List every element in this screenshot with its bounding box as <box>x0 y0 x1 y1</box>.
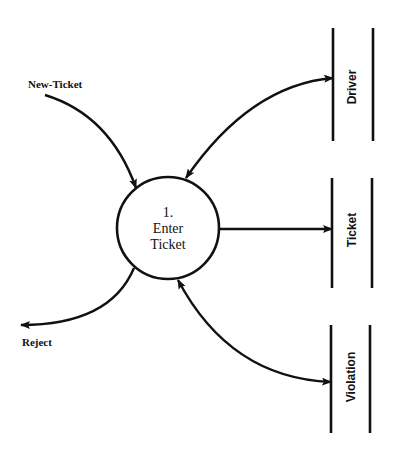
process-name-line1: Enter <box>153 221 184 236</box>
process-name-line2: Ticket <box>150 237 185 252</box>
process-number: 1. <box>163 205 174 220</box>
data-store-ticket: Ticket <box>332 178 372 288</box>
violation-flow-arrow <box>178 280 331 382</box>
data-store-violation-label: Violation <box>344 352 358 402</box>
process-enter-ticket: 1. Enter Ticket <box>117 177 219 279</box>
data-store-driver: Driver <box>333 28 373 141</box>
data-store-violation: Violation <box>331 325 370 433</box>
data-store-ticket-label: Ticket <box>345 213 359 247</box>
reject-flow-label: Reject <box>22 336 52 348</box>
reject-flow-arrow <box>21 268 134 325</box>
data-store-driver-label: Driver <box>345 69 359 104</box>
driver-flow-arrow <box>186 78 333 178</box>
new-ticket-flow-arrow <box>45 95 136 188</box>
new-ticket-flow-label: New-Ticket <box>28 78 83 90</box>
data-flow-diagram: New-Ticket 1. Enter Ticket Reject Driver… <box>0 0 395 452</box>
